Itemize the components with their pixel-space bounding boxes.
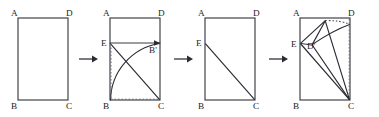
panel-1-label-B: B <box>11 101 17 111</box>
panel-1-label-A: A <box>11 8 18 18</box>
panel-2-rectangle <box>110 18 160 100</box>
panel-2-label-B: B <box>103 101 109 111</box>
arrow-3 <box>269 56 288 63</box>
panel-2 <box>110 18 160 100</box>
panel-2-label-E: E <box>101 38 107 48</box>
panel-4-label-A: A <box>293 8 300 18</box>
panel-3-segment-E-C <box>206 44 255 100</box>
panel-2-label-D: D <box>158 8 165 18</box>
panel-4-segment-E-C <box>301 44 349 99</box>
panel-4-segment-Dprime-C <box>312 45 349 99</box>
panel-4 <box>300 18 350 100</box>
folding-sequence-diagram: A D B C A D B C E B' A D B C E A D B C E… <box>0 0 379 117</box>
panel-4-label-D-prime: D' <box>307 41 316 51</box>
panel-4-segment-foldvertex-C <box>325 21 349 99</box>
panel-4-label-B: B <box>293 101 299 111</box>
arrow-2-head <box>187 56 193 63</box>
arrow-1 <box>79 56 98 63</box>
panel-3-label-B: B <box>198 101 204 111</box>
arrow-1-head <box>92 56 98 63</box>
panel-3-label-D: D <box>253 8 260 18</box>
panel-2-label-C: C <box>158 101 164 111</box>
panel-3 <box>205 18 255 100</box>
panel-4-segment-E-foldvertex <box>301 21 325 43</box>
arrow-3-head <box>282 56 288 63</box>
panel-3-rectangle <box>205 18 255 100</box>
panel-1 <box>18 18 68 100</box>
panel-2-label-A: A <box>103 8 110 18</box>
arrow-2 <box>174 56 193 63</box>
panel-1-rectangle <box>18 18 68 100</box>
panel-4-label-E: E <box>291 39 297 49</box>
panel-3-label-C: C <box>253 101 259 111</box>
panel-4-label-C: C <box>348 101 354 111</box>
panel-3-label-E: E <box>196 38 202 48</box>
panel-4-rectangle <box>300 18 350 100</box>
panel-3-label-A: A <box>198 8 205 18</box>
panel-1-label-C: C <box>66 101 72 111</box>
figure-container: A D B C A D B C E B' A D B C E A D B C E… <box>0 0 379 117</box>
panel-4-fold-arc-to-D <box>325 21 350 25</box>
panel-1-label-D: D <box>66 8 73 18</box>
panel-2-label-B-prime: B' <box>149 45 157 55</box>
panel-4-label-D: D <box>348 8 355 18</box>
